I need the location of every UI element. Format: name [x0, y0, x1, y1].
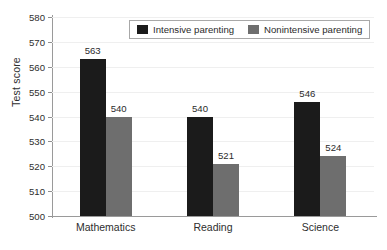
y-axis-tick-label: 560 [29, 61, 45, 72]
bar: 540 [187, 117, 213, 217]
bar: 524 [320, 156, 346, 216]
y-axis-tick-label: 570 [29, 36, 45, 47]
y-axis-tick-mark [48, 141, 52, 142]
legend-label: Nonintensive parenting [264, 24, 362, 35]
gray-swatch-icon [248, 25, 259, 34]
x-axis-tick-label: Reading [193, 221, 232, 233]
bar-value-label: 521 [218, 150, 234, 161]
y-axis-tick-label: 540 [29, 111, 45, 122]
y-axis-tick-label: 580 [29, 12, 45, 23]
bar: 521 [213, 164, 239, 216]
y-axis-tick-mark [48, 117, 52, 118]
y-axis-tick-label: 530 [29, 136, 45, 147]
y-axis-tick-mark [48, 42, 52, 43]
y-axis-tick-label: 520 [29, 161, 45, 172]
bar-value-label: 546 [299, 88, 315, 99]
bar: 563 [80, 59, 106, 216]
x-axis-tick-label: Science [302, 221, 339, 233]
x-axis-line [52, 216, 377, 217]
bar: 546 [294, 102, 320, 216]
gridline [52, 17, 374, 18]
y-axis-tick-mark [48, 67, 52, 68]
y-axis-tick-label: 550 [29, 86, 45, 97]
bar-chart: Test score 500510520530540550560570580 5… [0, 0, 387, 250]
y-axis-title: Test score [10, 34, 26, 130]
y-axis-tick-mark [48, 92, 52, 93]
legend-entry: Nonintensive parenting [248, 24, 362, 35]
plot-area: 500510520530540550560570580 563540540521… [52, 17, 374, 216]
y-axis-tick-label: 500 [29, 211, 45, 222]
gridline [52, 42, 374, 43]
y-axis-tick-mark [48, 17, 52, 18]
legend-entry: Intensive parenting [137, 24, 234, 35]
bar-value-label: 540 [111, 103, 127, 114]
y-axis-tick-mark [48, 216, 52, 217]
y-axis-tick-mark [48, 166, 52, 167]
bar-value-label: 524 [325, 142, 341, 153]
y-axis-tick-label: 510 [29, 186, 45, 197]
bar-value-label: 563 [85, 45, 101, 56]
chart-legend: Intensive parentingNonintensive parentin… [129, 20, 370, 39]
legend-label: Intensive parenting [153, 24, 234, 35]
black-swatch-icon [137, 25, 148, 34]
bar-value-label: 540 [192, 103, 208, 114]
y-axis-tick-mark [48, 191, 52, 192]
bar: 540 [106, 117, 132, 217]
x-axis-tick-label: Mathematics [76, 221, 136, 233]
